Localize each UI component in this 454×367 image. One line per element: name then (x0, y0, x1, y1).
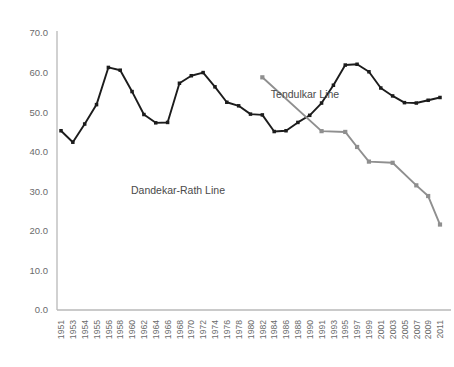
x-tick-label: 1997 (352, 320, 362, 339)
data-point-marker (426, 99, 430, 103)
x-tick-label: 1986 (281, 320, 291, 339)
data-point-marker (260, 75, 264, 79)
x-tick-label: 1955 (92, 320, 102, 339)
x-tick-label: 1953 (68, 320, 78, 339)
data-point-marker (415, 101, 419, 105)
data-point-marker (308, 114, 312, 118)
x-tick-label: 1990 (305, 320, 315, 339)
data-point-marker (403, 101, 407, 105)
data-point-marker (367, 70, 371, 74)
data-point-marker (190, 74, 194, 78)
data-point-marker (213, 85, 217, 89)
data-point-marker (332, 83, 336, 87)
x-tick-label: 2009 (423, 320, 433, 339)
data-point-marker (237, 104, 241, 108)
x-tick-label: 1951 (56, 320, 66, 339)
data-point-marker (249, 112, 253, 116)
x-tick-label: 2007 (412, 320, 422, 339)
data-point-marker (83, 122, 87, 126)
data-point-marker (95, 103, 99, 107)
data-point-marker (426, 194, 430, 198)
data-point-marker (438, 96, 442, 100)
data-point-marker (344, 63, 348, 67)
y-tick-label: 30.0 (30, 186, 49, 197)
data-point-marker (355, 63, 359, 66)
data-point-marker (355, 145, 359, 149)
x-tick-label: 1978 (234, 320, 244, 339)
x-tick-label: 1984 (269, 320, 279, 339)
x-tick-label: 1970 (186, 320, 196, 339)
x-tick-label: 2001 (376, 320, 386, 339)
data-point-marker (154, 121, 158, 125)
x-tick-label: 1964 (151, 320, 161, 339)
x-tick-label: 1995 (340, 320, 350, 339)
data-point-marker (272, 130, 276, 134)
x-tick-label: 1999 (364, 320, 374, 339)
data-point-marker (284, 129, 288, 133)
data-point-marker (225, 101, 229, 105)
series-annotation-label: Tendulkar Line (271, 88, 339, 100)
y-tick-label: 40.0 (30, 146, 49, 157)
data-point-marker (59, 129, 63, 133)
x-tick-label: 1960 (127, 320, 137, 339)
x-tick-label: 1954 (80, 320, 90, 339)
x-tick-label: 1958 (115, 320, 125, 339)
data-point-marker (296, 121, 300, 125)
y-tick-label: 50.0 (30, 107, 49, 118)
data-point-marker (71, 140, 75, 144)
data-point-marker (414, 183, 418, 187)
x-tick-label: 1991 (317, 320, 327, 339)
data-point-marker (178, 82, 182, 86)
data-point-marker (107, 66, 111, 70)
data-point-marker (438, 222, 442, 226)
data-point-marker (130, 90, 134, 94)
data-point-marker (343, 130, 347, 134)
series-dandekar-rath (59, 63, 442, 144)
x-tick-label: 1962 (139, 320, 149, 339)
y-tick-label: 60.0 (30, 67, 49, 78)
data-point-marker (201, 71, 205, 75)
x-tick-label: 1982 (258, 320, 268, 339)
x-tick-label: 1956 (104, 320, 114, 339)
series-line (61, 64, 440, 142)
y-tick-label: 10.0 (30, 265, 49, 276)
data-point-marker (379, 86, 383, 90)
y-tick-label: 70.0 (30, 27, 49, 38)
series-annotation-label: Dandekar-Rath Line (131, 184, 225, 196)
x-tick-label: 1972 (198, 320, 208, 339)
data-point-marker (320, 101, 324, 105)
y-tick-label: 20.0 (30, 225, 49, 236)
chart-figure: 0.010.020.030.040.050.060.070.0195119531… (0, 0, 454, 367)
data-point-marker (391, 161, 395, 165)
x-tick-label: 2011 (435, 320, 445, 339)
data-point-marker (118, 68, 122, 72)
data-point-marker (319, 129, 323, 133)
data-point-marker (261, 113, 265, 117)
x-tick-label: 2005 (400, 320, 410, 339)
x-tick-label: 2003 (388, 320, 398, 339)
y-tick-label: 0.0 (35, 304, 48, 315)
x-tick-label: 1988 (293, 320, 303, 339)
data-point-marker (166, 121, 170, 125)
x-tick-label: 1980 (246, 320, 256, 339)
data-point-marker (142, 113, 146, 117)
x-tick-label: 1993 (329, 320, 339, 339)
x-tick-label: 1974 (210, 320, 220, 339)
x-tick-label: 1968 (175, 320, 185, 339)
x-tick-label: 1966 (163, 320, 173, 339)
data-point-marker (367, 160, 371, 164)
data-point-marker (391, 94, 395, 98)
line-chart-canvas: 0.010.020.030.040.050.060.070.0195119531… (0, 0, 454, 367)
x-tick-label: 1976 (222, 320, 232, 339)
